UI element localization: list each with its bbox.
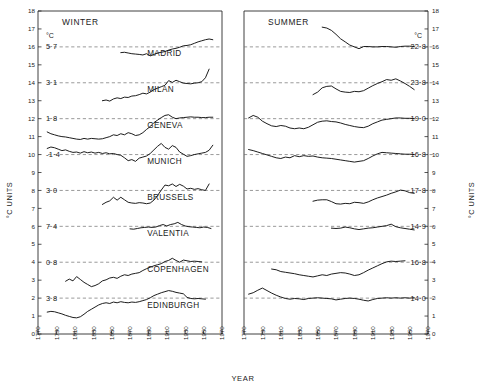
summer-mean-munich: 16·8: [410, 150, 426, 159]
x-tick-label-winter-1850: 1850: [108, 326, 115, 340]
y-tick-label-left-17: 17: [28, 25, 35, 32]
y-tick-label-left-6: 6: [32, 223, 36, 230]
panel-frame-winter: [38, 11, 222, 334]
x-tick-label-summer-1870: 1870: [332, 326, 339, 340]
series-label-copenhagen: COPENHAGEN: [147, 265, 209, 274]
series-label-munich: MUNICH: [147, 157, 182, 166]
series-label-madrid: MADRID: [147, 49, 181, 58]
panel-frame-summer: [244, 11, 428, 334]
x-tick-label-summer-1970: 1970: [424, 326, 431, 340]
figure-canvas: 0011223344556677889910101111121213131414…: [0, 0, 486, 387]
winter-mean-madrid: 5·7: [46, 42, 57, 51]
y-tick-label-left-8: 8: [32, 187, 36, 194]
x-tick-label-summer-1910: 1910: [369, 326, 376, 340]
series-milan-summer: [313, 79, 414, 95]
series-madrid-summer: [322, 27, 414, 49]
temperature-series-chart: 0011223344556677889910101111121213131414…: [0, 0, 486, 387]
y-tick-label-left-2: 2: [32, 294, 36, 301]
x-tick-label-winter-1950: 1950: [200, 326, 207, 340]
summer-mean-brussels: 17·8: [410, 186, 426, 195]
winter-panel-title: WINTER: [62, 17, 99, 27]
summer-panel-title: SUMMER: [268, 17, 309, 27]
y-tick-label-left-4: 4: [32, 258, 36, 265]
x-tick-label-summer-1830: 1830: [296, 326, 303, 340]
y-tick-label-right-1: 1: [432, 312, 436, 319]
series-munich-summer: [249, 150, 415, 163]
y-tick-label-left-18: 18: [28, 7, 35, 14]
y-tick-label-left-12: 12: [28, 115, 35, 122]
y-tick-label-left-5: 5: [32, 240, 36, 247]
y-tick-label-right-15: 15: [432, 61, 439, 68]
series-label-valentia: VALENTIA: [147, 229, 189, 238]
y-tick-label-right-3: 3: [432, 276, 436, 283]
winter-mean-copenhagen: 0·8: [46, 258, 57, 267]
x-tick-label-winter-1770: 1770: [34, 326, 41, 340]
x-tick-label-winter-1890: 1890: [145, 326, 152, 340]
summer-mean-milan: 23·8: [410, 78, 426, 87]
y-tick-label-left-3: 3: [32, 276, 36, 283]
y-axis-title-left: °C UNITS: [5, 182, 14, 219]
y-tick-label-right-18: 18: [432, 7, 439, 14]
y-tick-label-left-7: 7: [32, 205, 36, 212]
winter-mean-geneva: 1·8: [46, 114, 57, 123]
y-axis-title-right: °C UNITS: [467, 182, 476, 219]
y-tick-label-right-5: 5: [432, 240, 436, 247]
x-tick-label-summer-1790: 1790: [259, 326, 266, 340]
summer-mean-geneva: 19·0: [410, 114, 426, 123]
summer-mean-copenhagen: 16·8: [410, 258, 426, 267]
summer-mean-valentia: 14·9: [410, 222, 426, 231]
summer-mean-madrid: 22·8: [410, 42, 426, 51]
series-brussels-summer: [313, 190, 414, 204]
y-tick-label-right-0: 0: [432, 330, 436, 337]
y-tick-label-right-9: 9: [432, 169, 436, 176]
y-tick-label-right-13: 13: [432, 97, 439, 104]
unit-marker-winter: °C: [46, 32, 54, 39]
x-tick-label-summer-1770: 1770: [240, 326, 247, 340]
series-copenhagen-summer: [272, 261, 405, 277]
series-label-milan: MILAN: [147, 85, 174, 94]
series-label-brussels: BRUSSELS: [147, 193, 194, 202]
y-tick-label-left-13: 13: [28, 97, 35, 104]
unit-marker-summer: °C: [414, 32, 422, 39]
y-tick-label-left-11: 11: [29, 133, 36, 140]
y-tick-label-left-16: 16: [28, 43, 35, 50]
x-axis-title: YEAR: [231, 374, 254, 383]
x-tick-label-summer-1890: 1890: [351, 326, 358, 340]
y-tick-label-right-7: 7: [432, 205, 436, 212]
x-tick-label-summer-1810: 1810: [277, 326, 284, 340]
y-tick-label-left-10: 10: [28, 151, 35, 158]
y-tick-label-left-15: 15: [28, 61, 35, 68]
y-tick-label-left-14: 14: [28, 79, 35, 86]
x-tick-label-summer-1850: 1850: [314, 326, 321, 340]
series-edinburgh-summer: [249, 288, 415, 301]
y-tick-label-left-1: 1: [32, 312, 36, 319]
winter-mean-valentia: 7·4: [46, 222, 57, 231]
y-tick-label-right-17: 17: [432, 25, 439, 32]
series-geneva-summer: [249, 115, 415, 128]
winter-mean-edinburgh: 3·8: [46, 294, 57, 303]
x-tick-label-winter-1970: 1970: [218, 326, 225, 340]
x-tick-label-winter-1910: 1910: [163, 326, 170, 340]
y-tick-label-left-9: 9: [32, 169, 36, 176]
x-tick-label-summer-1950: 1950: [406, 326, 413, 340]
series-label-edinburgh: EDINBURGH: [147, 301, 199, 310]
y-tick-label-right-11: 11: [432, 133, 439, 140]
x-tick-label-summer-1930: 1930: [388, 326, 395, 340]
series-valentia-summer: [331, 224, 414, 230]
winter-mean-brussels: 3·0: [46, 186, 57, 195]
x-tick-label-winter-1870: 1870: [126, 326, 133, 340]
x-tick-label-winter-1810: 1810: [71, 326, 78, 340]
winter-mean-munich: -1·4: [46, 150, 60, 159]
winter-mean-milan: 3·1: [46, 78, 57, 87]
x-tick-label-winter-1790: 1790: [53, 326, 60, 340]
x-tick-label-winter-1830: 1830: [90, 326, 97, 340]
series-label-geneva: GENEVA: [147, 121, 183, 130]
series-munich-winter: [47, 143, 213, 161]
x-tick-label-winter-1930: 1930: [182, 326, 189, 340]
summer-mean-edinburgh: 14·0: [410, 294, 426, 303]
